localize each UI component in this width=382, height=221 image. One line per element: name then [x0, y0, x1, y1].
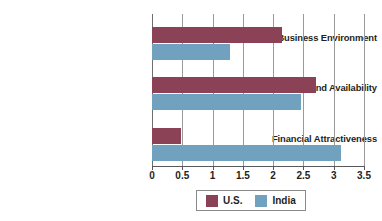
- gridline-3-5: [364, 14, 365, 166]
- legend-swatch-india-icon: [255, 195, 267, 207]
- gridline-3: [334, 14, 335, 166]
- x-tick-label: 2: [270, 171, 276, 181]
- legend-item-india: India: [255, 195, 295, 207]
- bar: [152, 27, 282, 43]
- x-tick-label: 0.5: [175, 171, 189, 181]
- legend-label-india: India: [272, 196, 295, 206]
- bar: [152, 94, 301, 110]
- legend-item-us: U.S.: [206, 195, 242, 207]
- chart-legend: U.S. India: [196, 190, 306, 211]
- x-tick-label: 1: [210, 171, 216, 181]
- x-tick-label: 1.5: [236, 171, 250, 181]
- bar-chart: Business Environment People Skills and A…: [0, 0, 382, 221]
- plot-area: [152, 14, 364, 166]
- bar: [152, 145, 341, 161]
- x-tick-label: 3: [331, 171, 337, 181]
- x-tick-label: 0: [149, 171, 155, 181]
- bar: [152, 128, 181, 144]
- legend-label-us: U.S.: [223, 196, 242, 206]
- bar: [152, 44, 230, 60]
- bar: [152, 77, 316, 93]
- x-tick-label: 3.5: [357, 171, 371, 181]
- legend-swatch-us-icon: [206, 195, 218, 207]
- x-tick-label: 2.5: [296, 171, 310, 181]
